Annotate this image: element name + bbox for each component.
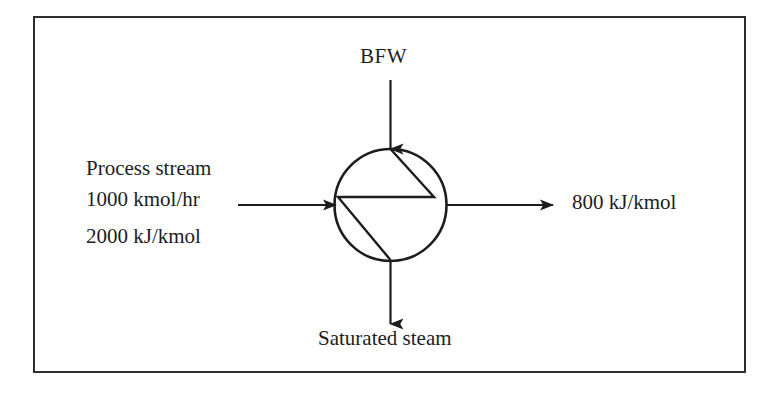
heat-exchanger-circle [335,149,447,261]
outlet-enthalpy-label: 800 kJ/kmol [572,192,676,213]
diagram-page: BFW Process stream 1000 kmol/hr 2000 kJ/… [0,0,773,395]
process-stream-name-label: Process stream [86,156,211,181]
saturated-steam-label: Saturated steam [318,328,452,349]
process-stream-label-group: Process stream 1000 kmol/hr 2000 kJ/kmol [86,156,211,249]
process-stream-inlet-enthalpy-label: 2000 kJ/kmol [86,224,211,249]
bfw-stream-label: BFW [360,46,407,67]
process-stream-flowrate-label: 1000 kmol/hr [86,187,211,212]
